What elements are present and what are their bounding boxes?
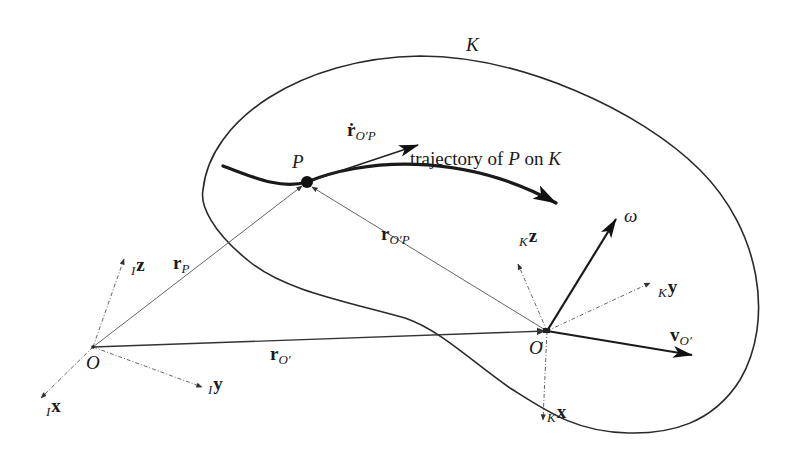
point-O-prime [543, 328, 550, 333]
body-axis-x [543, 331, 547, 420]
label-v-O-prime-sub: O′ [680, 333, 692, 348]
label-body-y: Ky [657, 276, 678, 300]
body-label: K [465, 34, 480, 55]
label-O: O [86, 352, 100, 373]
label-inertial-y-axis: y [213, 373, 223, 394]
label-inertial-x-axis: x [51, 395, 61, 416]
label-r-O-prime-sub: O′ [278, 352, 290, 367]
kinematics-diagram: K O O′ P rP rO′ rO′P ṙO′P [0, 0, 802, 459]
label-O-prime: O′ [529, 337, 544, 358]
label-body-x-prefix: K [546, 410, 557, 425]
trajectory-label-K: K [547, 148, 562, 169]
label-r-dot-sub: O′P [355, 128, 375, 143]
label-r-P-sub: P [180, 261, 189, 276]
point-P [301, 176, 313, 188]
trajectory-curve [223, 164, 556, 203]
inertial-axis-y [93, 347, 202, 387]
label-inertial-x: Ix [45, 395, 61, 419]
vector-omega [547, 219, 616, 331]
label-body-x: Kx [546, 401, 567, 425]
point-O [91, 345, 95, 349]
label-r-dot-O-prime-P: ṙO′P [347, 119, 376, 143]
label-body-z-prefix: K [518, 234, 529, 249]
label-inertial-x-prefix: I [45, 404, 51, 419]
inertial-axis-z [93, 259, 124, 347]
label-r-O-prime: rO′ [270, 343, 291, 367]
label-r-O-prime-P: rO′P [381, 223, 410, 247]
label-r-P: rP [173, 252, 189, 276]
vector-r-O-prime-P [312, 187, 547, 331]
label-inertial-y-prefix: I [207, 382, 213, 397]
label-body-y-prefix: K [657, 285, 668, 300]
trajectory-label: trajectory of P on K [410, 148, 562, 169]
trajectory-label-text: trajectory of [410, 148, 508, 169]
label-O-prime-mark: ′ [540, 340, 544, 355]
label-r-O-prime-P-sub: O′P [389, 232, 409, 247]
vector-r-P [93, 186, 302, 347]
label-omega: ω [624, 205, 637, 226]
label-P: P [291, 151, 304, 172]
label-body-z: Kz [518, 225, 538, 249]
label-body-x-axis: x [557, 401, 567, 422]
label-body-z-axis: z [529, 225, 538, 246]
trajectory-label-P: P [507, 148, 520, 169]
label-inertial-z-axis: z [136, 254, 145, 275]
label-v-O-prime-main: v [670, 324, 680, 345]
label-inertial-z-prefix: I [130, 263, 136, 278]
vector-r-O-prime [93, 331, 545, 347]
label-inertial-z: Iz [130, 254, 145, 278]
label-inertial-y: Iy [207, 373, 223, 397]
body-axis-z [518, 264, 547, 331]
rigid-body-outline [203, 56, 759, 433]
trajectory-label-on: on [520, 148, 549, 169]
label-v-O-prime: vO′ [670, 324, 692, 348]
label-body-y-axis: y [668, 276, 678, 297]
